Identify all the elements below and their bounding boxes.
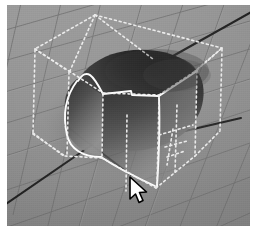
- object-bloom-2: [143, 59, 211, 91]
- viewport-canvas[interactable]: [7, 5, 250, 226]
- scene-layer: [7, 5, 250, 226]
- page-margin-top: [0, 0, 254, 5]
- page-margin-right: [250, 0, 254, 235]
- screenshot-root: [0, 0, 254, 235]
- page-margin-left: [0, 0, 7, 235]
- viewport-3d[interactable]: [7, 5, 250, 226]
- page-margin-bottom: [0, 226, 254, 235]
